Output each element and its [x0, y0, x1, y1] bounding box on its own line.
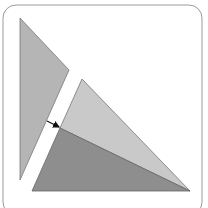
arrow-connector [47, 121, 59, 127]
diagram-canvas [0, 0, 208, 208]
